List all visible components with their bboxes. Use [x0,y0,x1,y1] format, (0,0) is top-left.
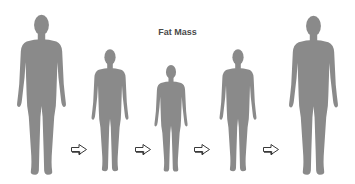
human-silhouette-1 [15,13,68,177]
human-silhouette-2 [90,48,130,173]
arrow-right-icon [70,143,88,156]
human-silhouette-4 [218,48,258,173]
fat-mass-diagram: Fat Mass [0,0,355,184]
arrow-right-icon [134,143,152,156]
human-silhouette-3 [153,64,189,173]
human-silhouette-5 [287,14,340,177]
arrow-right-icon [262,143,280,156]
arrow-right-icon [193,143,211,156]
